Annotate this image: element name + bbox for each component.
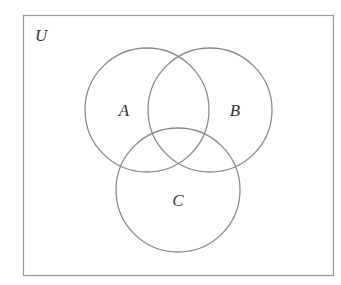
set-a-label: A bbox=[118, 101, 130, 120]
universe-label: U bbox=[35, 26, 49, 45]
set-c-circle bbox=[116, 128, 240, 252]
venn-svg: U A B C bbox=[0, 0, 341, 285]
set-b-label: B bbox=[230, 101, 241, 120]
venn-diagram: U A B C bbox=[0, 0, 341, 285]
set-a-circle bbox=[85, 48, 209, 172]
set-b-circle bbox=[148, 48, 272, 172]
universe-rectangle bbox=[24, 16, 334, 276]
set-c-label: C bbox=[172, 191, 184, 210]
